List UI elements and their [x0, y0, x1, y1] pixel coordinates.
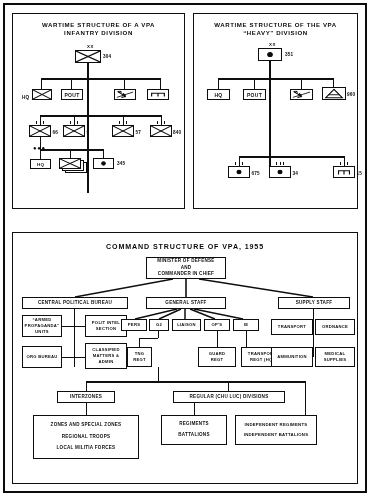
- supply-staff-box: SUPPLY STAFF: [278, 297, 350, 309]
- infantry-staff-drop-4: [160, 78, 161, 89]
- ie-box: IE: [233, 319, 259, 331]
- transport-regt-drop: [246, 331, 247, 347]
- regular-divisions-drop: [228, 381, 229, 391]
- armed-propaganda-units-box: “ARMED PROPAGANDA” UNITS: [22, 315, 62, 337]
- liaison-box: LIAISON: [172, 319, 201, 331]
- heavy-division-symbol: [258, 48, 282, 61]
- heavy-pout-box: POUT: [243, 89, 266, 100]
- medical-supplies-box: MEDICAL SUPPLIES: [315, 347, 355, 367]
- infantry-battalion-number: 345: [117, 161, 125, 166]
- heavy-regiment-number-3: 15: [357, 171, 363, 176]
- panel-infantry-title: WARTIME STRUCTURE OF A VPA INFANTRY DIVI…: [13, 21, 184, 36]
- command-structure-title: COMMAND STRUCTURE OF VPA, 1955: [13, 243, 357, 252]
- guard-regt-box: GUARD REGT: [198, 347, 236, 367]
- infantry-battalion-hq-box: HQ: [30, 159, 51, 169]
- cpb-spine: [74, 323, 75, 367]
- heavy-staff-bus: [218, 78, 334, 80]
- independent-units-box: INDEPENDENT REGIMENTS INDEPENDENT BATTAL…: [235, 415, 317, 445]
- infantry-regiment-symbol-4: [150, 125, 172, 137]
- heavy-staff-drop-2: [254, 78, 255, 89]
- regular-divisions-box: REGULAR (CHU LUC) DIVISIONS: [173, 391, 285, 403]
- transport-box: TRANSPORT: [271, 319, 313, 335]
- signal-lightning-icon: [114, 89, 136, 100]
- infantry-regiment-symbol-1: [29, 125, 51, 137]
- minister-of-defense-box: MINISTER OF DEFENSE AND COMMANDER IN CHI…: [146, 257, 226, 279]
- infantry-main-trunk: [87, 63, 89, 193]
- infantry-hq-symbol: [32, 89, 52, 100]
- heavy-staff-drop-1: [218, 78, 219, 89]
- infantry-regiment-symbol-2: [63, 125, 85, 137]
- heavy-division-number: 351: [285, 52, 293, 57]
- interzones-drop: [86, 381, 87, 391]
- infantry-regiment-number-1: 66: [53, 130, 59, 135]
- interzones-box: INTERZONES: [57, 391, 115, 403]
- heavy-signal-lightning-icon: [290, 89, 313, 100]
- lower-bus: [86, 381, 306, 383]
- diagram-page: WARTIME STRUCTURE OF A VPA INFANTRY DIVI…: [0, 0, 370, 496]
- infantry-regiment-number-2: 9: [87, 130, 90, 135]
- infantry-battalion-bus: [40, 149, 104, 151]
- panel-heavy-division: WARTIME STRUCTURE OF THE VPA “HEAVY” DIV…: [193, 13, 358, 209]
- ops-box: OP'S: [204, 319, 230, 331]
- org-bureau-box: ORG BUREAU: [22, 346, 62, 368]
- infantry-division-echelon: XX: [87, 44, 94, 49]
- g2-box: G2: [149, 319, 169, 331]
- heavy-division-echelon: XX: [269, 42, 276, 47]
- interzone-units-box: ZONES AND SPECIAL ZONES REGIONAL TROOPS …: [33, 415, 139, 459]
- heavy-engineer-number: 960: [347, 92, 355, 97]
- heavy-title-line1: WARTIME STRUCTURE OF THE VPA: [214, 21, 337, 28]
- pers-box: PERS: [121, 319, 147, 331]
- heavy-staff-drop-3: [301, 78, 302, 89]
- regiments-battalions-box: REGIMENTS BATTALIONS: [161, 415, 227, 445]
- panel-command-structure: COMMAND STRUCTURE OF VPA, 1955 MINISTER …: [12, 232, 358, 484]
- guard-regt-drop: [217, 331, 218, 347]
- panel-heavy-title: WARTIME STRUCTURE OF THE VPA “HEAVY” DIV…: [194, 21, 357, 36]
- infantry-regiment-number-4: 840: [173, 130, 181, 135]
- interzone-units-stem: [86, 403, 87, 415]
- engineer-triangle-icon: [322, 87, 346, 100]
- heavy-regiment-bus: [239, 156, 345, 158]
- infantry-regiment-number-3: 57: [136, 130, 142, 135]
- ordnance-box: ORDNANCE: [315, 319, 355, 335]
- tng-regt-box: TNG REGT: [127, 347, 152, 367]
- heavy-regiment-number-1: 675: [252, 171, 260, 176]
- cpb-bus-upper: [62, 326, 85, 327]
- heavy-regiment-symbol-2: [269, 166, 291, 178]
- minister-line1: MINISTER OF DEFENSE: [157, 258, 214, 265]
- general-staff-box: GENERAL STAFF: [146, 297, 226, 309]
- regiments-stem: [194, 403, 195, 415]
- infantry-title-line2: INFANTRY DIVISION: [64, 29, 133, 36]
- heavy-hq-box: HQ: [207, 89, 230, 100]
- infantry-division-number: 304: [103, 54, 111, 59]
- lower-trunk-stem: [158, 367, 159, 381]
- heavy-title-line2: “HEAVY” DIVISION: [243, 29, 308, 36]
- infantry-staff-drop-2: [71, 78, 72, 89]
- infantry-staff-drop-1: [41, 78, 42, 89]
- infantry-staff-drop-3: [124, 78, 125, 89]
- infantry-hq-echelon-dots: ●●●: [33, 147, 46, 150]
- panel-infantry-division: WARTIME STRUCTURE OF A VPA INFANTRY DIVI…: [12, 13, 185, 209]
- infantry-regiment-bus: [40, 115, 162, 117]
- minister-line2: AND: [181, 265, 192, 272]
- heavy-staff-drop-4: [333, 78, 334, 87]
- infantry-regiment-symbol-3: [112, 125, 134, 137]
- minister-line3: COMMANDER IN CHIEF: [158, 271, 214, 278]
- infantry-title-line1: WARTIME STRUCTURE OF A VPA: [42, 21, 155, 28]
- heavy-regiment-symbol-1: [228, 166, 250, 178]
- tng-regt-bus: [139, 338, 158, 339]
- infantry-staff-bus: [41, 78, 161, 80]
- artillery-battalion-symbol: [93, 158, 114, 169]
- infantry-division-symbol: [75, 50, 101, 63]
- central-political-bureau-box: CENTRAL POLITICAL BUREAU: [22, 297, 128, 309]
- heavy-regiment-number-2: 34: [293, 171, 299, 176]
- infantry-battalion-stack-symbol: [59, 158, 81, 169]
- cpb-bus-lower: [62, 357, 85, 358]
- heavy-regiment-symbol-3: [333, 166, 355, 178]
- classified-matters-box: CLASSIFIED MATTERS & ADMIN: [85, 343, 127, 369]
- g2-drop: [158, 331, 159, 338]
- cpb-stem: [74, 309, 75, 323]
- engineer-bridge-icon: [147, 89, 169, 100]
- ammunition-box: AMMUNITION: [271, 347, 313, 367]
- tng-regt-drop: [139, 338, 140, 347]
- infantry-pout-box: POUT: [61, 89, 83, 100]
